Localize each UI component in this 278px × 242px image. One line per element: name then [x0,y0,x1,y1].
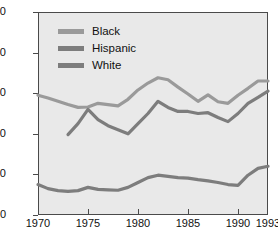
y-tick-label-10: 10 [0,168,6,179]
x-tick-label-1975: 1975 [68,218,108,229]
legend-item-black: Black [58,24,136,39]
y-tick-label-40: 40 [0,47,6,58]
x-tick-mark-1975 [88,209,89,215]
legend-item-white: White [58,58,136,73]
y-tick-mark-20 [33,134,38,135]
y-tick-label-0: 0 [0,209,6,220]
y-tick-mark-40 [33,53,38,54]
chart-legend: Black Hispanic White [58,24,136,75]
x-tick-mark-1980 [138,209,139,215]
y-tick-label-20: 20 [0,128,6,139]
x-tick-label-1970: 1970 [18,218,58,229]
y-tick-mark-50 [33,12,38,13]
legend-label-white: White [92,60,121,72]
legend-swatch-black [58,29,84,34]
legend-label-hispanic: Hispanic [92,43,136,55]
legend-item-hispanic: Hispanic [58,41,136,56]
y-tick-label-30: 30 [0,87,6,98]
y-tick-mark-30 [33,93,38,94]
y-tick-label-50: 50 [0,6,6,17]
x-tick-mark-1985 [188,209,189,215]
y-tick-mark-10 [33,174,38,175]
legend-swatch-hispanic [58,46,84,51]
y-tick-mark-0 [33,215,38,216]
legend-label-black: Black [92,26,120,38]
poverty-line-chart: Percent of Group Living in Poverty 01020… [0,0,278,242]
x-tick-label-1993: 1993 [248,218,278,229]
x-tick-label-1980: 1980 [118,218,158,229]
x-tick-mark-1990 [238,209,239,215]
legend-swatch-white [58,63,84,68]
x-tick-label-1985: 1985 [168,218,208,229]
